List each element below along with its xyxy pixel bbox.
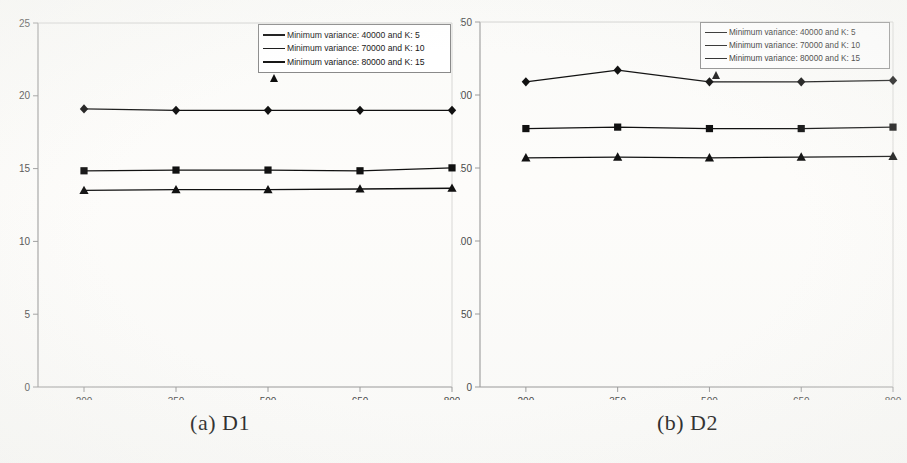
square-marker-icon (706, 125, 713, 132)
y-axis-tick-label: 250 (460, 17, 472, 28)
figure-panel-d1: 0510152025200350500650800 Minimum varian… (0, 0, 460, 463)
y-axis-tick-label: 10 (19, 236, 31, 247)
square-marker-icon (263, 43, 285, 54)
data-series (522, 124, 896, 133)
square-marker-icon (264, 166, 271, 173)
legend-item-label: Minimum variance: 70000 and K: 10 (729, 41, 860, 50)
diamond-marker-icon (356, 106, 364, 115)
data-series (80, 164, 455, 174)
square-marker-icon (448, 164, 455, 171)
legend-item: Minimum variance: 40000 and K: 5 (263, 28, 445, 42)
y-axis-tick-label: 20 (19, 90, 31, 101)
diamond-marker-icon (263, 29, 285, 40)
figure-page: 0510152025200350500650800 Minimum varian… (0, 0, 907, 463)
legend-item: Minimum variance: 70000 and K: 10 (263, 42, 445, 56)
data-series (79, 183, 456, 194)
square-marker-icon (356, 167, 363, 174)
legend-d1: Minimum variance: 40000 and K: 5 Minimum… (258, 24, 451, 73)
square-marker-icon (80, 167, 87, 174)
diamond-marker-icon (889, 76, 897, 85)
legend-d2: Minimum variance: 40000 and K: 5 Minimum… (700, 22, 890, 69)
square-marker-icon (522, 125, 529, 132)
y-axis-tick-label: 150 (460, 163, 472, 174)
legend-item: Minimum variance: 80000 and K: 15 (263, 55, 445, 69)
y-axis-tick-label: 5 (24, 309, 30, 320)
diamond-marker-icon (797, 77, 805, 86)
square-marker-icon (614, 124, 621, 131)
diamond-marker-icon (522, 77, 530, 86)
x-axis-tick-label: 200 (76, 396, 93, 400)
y-axis-tick-label: 15 (19, 163, 31, 174)
legend-item-label: Minimum variance: 80000 and K: 15 (287, 57, 425, 67)
y-axis-tick-label: 0 (24, 382, 30, 393)
legend-item-label: Minimum variance: 40000 and K: 5 (729, 28, 856, 37)
x-axis-tick-label: 650 (352, 396, 369, 400)
data-series (80, 104, 456, 115)
legend-item: Minimum variance: 80000 and K: 15 (705, 52, 884, 65)
x-axis-tick-label: 350 (609, 396, 626, 400)
x-axis-tick-label: 800 (444, 396, 460, 400)
x-axis-tick-label: 200 (518, 396, 535, 400)
y-axis-tick-label: 50 (461, 309, 473, 320)
x-axis-tick-label: 350 (168, 396, 185, 400)
square-marker-icon (798, 125, 805, 132)
x-axis-tick-label: 800 (885, 396, 902, 400)
y-axis-tick-label: 200 (460, 90, 472, 101)
data-series (521, 152, 897, 162)
triangle-marker-icon (705, 53, 727, 64)
diamond-marker-icon (172, 106, 180, 115)
diamond-marker-icon (264, 106, 272, 115)
legend-item-label: Minimum variance: 80000 and K: 15 (729, 54, 860, 63)
square-marker-icon (889, 124, 896, 131)
legend-item-label: Minimum variance: 40000 and K: 5 (287, 30, 420, 40)
y-axis-tick-label: 0 (466, 382, 472, 393)
legend-item: Minimum variance: 70000 and K: 10 (705, 39, 884, 52)
legend-item-label: Minimum variance: 70000 and K: 10 (287, 43, 425, 53)
square-marker-icon (172, 166, 179, 173)
x-axis-tick-label: 650 (793, 396, 810, 400)
diamond-marker-icon (448, 106, 456, 115)
x-axis-tick-label: 500 (701, 396, 718, 400)
diamond-marker-icon (613, 66, 621, 75)
diamond-marker-icon (705, 27, 727, 38)
y-axis-tick-label: 25 (19, 18, 31, 29)
x-axis-tick-label: 500 (260, 396, 277, 400)
panel-caption-d2: (b) D2 (464, 410, 907, 436)
square-marker-icon (705, 40, 727, 51)
legend-item: Minimum variance: 40000 and K: 5 (705, 26, 884, 39)
diamond-marker-icon (80, 104, 88, 113)
figure-panel-d2: 050100150200250200350500650800 Minimum v… (460, 0, 907, 463)
panel-caption-d1: (a) D1 (0, 410, 450, 436)
triangle-marker-icon (263, 56, 285, 67)
y-axis-tick-label: 100 (460, 236, 472, 247)
